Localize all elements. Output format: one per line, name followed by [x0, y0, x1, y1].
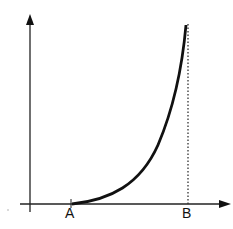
label-a: A — [65, 205, 74, 221]
curve — [72, 25, 186, 204]
x-axis-arrow-icon — [219, 200, 231, 208]
diagram-canvas — [0, 0, 233, 229]
label-b: B — [182, 205, 191, 221]
stray-dot — [7, 209, 8, 210]
y-axis-arrow-icon — [26, 14, 34, 25]
